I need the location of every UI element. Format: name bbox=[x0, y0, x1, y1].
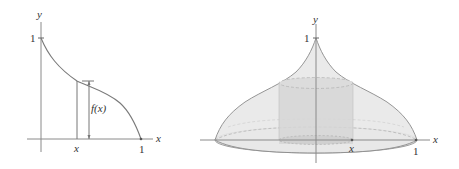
right-y-axis-label: y bbox=[312, 13, 318, 25]
left-curve-fx bbox=[41, 38, 141, 139]
left-x-axis-label: x bbox=[155, 132, 161, 144]
left-endpoint-marker bbox=[140, 138, 143, 141]
left-x-marker-label: x bbox=[73, 142, 79, 154]
left-fx-arrow-top bbox=[88, 81, 91, 85]
left-y-tick-label: 1 bbox=[30, 32, 36, 44]
left-fx-label: f(x) bbox=[91, 102, 107, 115]
left-y-axis-label: y bbox=[36, 8, 42, 20]
left-figure: y 1 x x 1 f(x) bbox=[27, 8, 161, 155]
right-x-marker-dot bbox=[351, 139, 354, 142]
right-endpoint-marker bbox=[415, 139, 418, 142]
right-x-marker-label: x bbox=[348, 142, 354, 154]
right-y-tick-label: 1 bbox=[304, 32, 310, 44]
left-x-tick-label: 1 bbox=[139, 143, 145, 155]
figure-canvas: y 1 x x 1 f(x) y 1 x x 1 bbox=[0, 0, 459, 169]
right-x-tick-label: 1 bbox=[413, 145, 419, 157]
right-figure: y 1 x x 1 bbox=[200, 13, 438, 163]
right-x-axis-label: x bbox=[432, 133, 438, 145]
left-fx-arrow-bottom bbox=[88, 135, 91, 139]
